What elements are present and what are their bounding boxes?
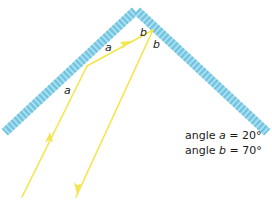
- angle-caption: angle a = 20° angle b = 70°: [185, 128, 262, 158]
- angle-label-b-incident: b: [140, 26, 147, 39]
- reflection-diagram: a a b b: [0, 0, 272, 204]
- right-mirror: [134, 8, 270, 136]
- angle-label-a-reflected: a: [105, 41, 112, 54]
- caption-angle-b: angle b = 70°: [185, 143, 262, 158]
- angle-label-a-incident: a: [64, 84, 71, 97]
- angle-label-b-reflected: b: [153, 38, 160, 51]
- left-mirror: [2, 8, 138, 136]
- caption-angle-a: angle a = 20°: [185, 128, 262, 143]
